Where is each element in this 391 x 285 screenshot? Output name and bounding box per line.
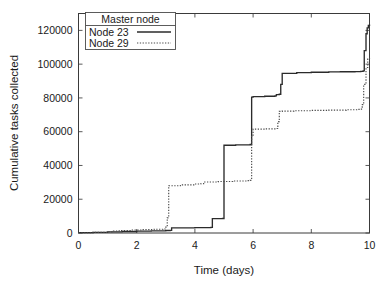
- legend: Master node Node 23 Node 29: [86, 13, 176, 50]
- x-axis-title: Time (days): [194, 264, 254, 276]
- y-tick-label: 20000: [43, 193, 72, 205]
- cumulative-tasks-line-chart: 020000400006000080000100000120000 024681…: [0, 0, 391, 285]
- x-tick-label: 10: [364, 239, 376, 251]
- y-tick-label: 100000: [37, 58, 72, 70]
- legend-entry-label-1: Node 29: [89, 37, 129, 49]
- x-tick-label: 2: [134, 239, 140, 251]
- y-tick-label: 40000: [43, 159, 72, 171]
- y-axis-title: Cumulative tasks collected: [8, 55, 20, 191]
- x-tick-label: 4: [192, 239, 198, 251]
- x-tick-label: 8: [308, 239, 314, 251]
- x-tick-label: 6: [250, 239, 256, 251]
- y-tick-label: 120000: [37, 24, 72, 36]
- chart-figure: 020000400006000080000100000120000 024681…: [0, 0, 391, 285]
- y-tick-label: 60000: [43, 125, 72, 137]
- y-tick-label: 0: [67, 227, 73, 239]
- y-tick-label: 80000: [43, 92, 72, 104]
- legend-title: Master node: [101, 13, 160, 25]
- x-tick-label: 0: [76, 239, 82, 251]
